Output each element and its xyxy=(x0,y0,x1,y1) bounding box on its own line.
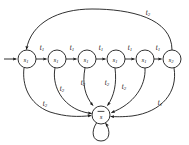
edge-sink-n1 xyxy=(24,68,92,116)
state-node-n4[interactable]: s1 xyxy=(107,50,125,68)
automaton-diagram: s1 s1 s1 s1 s1 s2 s t1 xyxy=(0,0,189,145)
state-node-sink[interactable]: s xyxy=(92,106,110,124)
edge-label-sink-6: t1 xyxy=(158,99,162,107)
edge-label-sink-1: t2 xyxy=(43,100,48,108)
svg-text:t2: t2 xyxy=(60,85,65,93)
state-node-n6[interactable]: s2 xyxy=(163,50,181,68)
svg-text:t2: t2 xyxy=(81,79,86,87)
edge-label-chain-5: t1 xyxy=(156,44,160,52)
state-node-n5[interactable]: s1 xyxy=(136,50,154,68)
svg-text:t1: t1 xyxy=(99,44,103,52)
svg-text:t2: t2 xyxy=(122,83,127,91)
edge-label-chain-1: t1 xyxy=(40,44,44,52)
edge-label-sink-2: t2 xyxy=(60,85,65,93)
edge-label-return: t2 xyxy=(146,9,151,17)
state-node-n1[interactable]: s1 xyxy=(18,50,36,68)
edge-sink-n6 xyxy=(111,68,175,117)
edge-label-sink-4: t2 xyxy=(105,79,110,87)
svg-text:t1: t1 xyxy=(156,44,160,52)
edge-sink-n5 xyxy=(111,68,145,113)
node-label-sink: s xyxy=(100,113,103,121)
svg-text:t1: t1 xyxy=(128,44,132,52)
edge-label-chain-4: t1 xyxy=(128,44,132,52)
svg-text:t2: t2 xyxy=(43,100,48,108)
state-node-n3[interactable]: s1 xyxy=(78,50,96,68)
edge-sink-n3 xyxy=(84,68,93,106)
svg-text:t1: t1 xyxy=(70,44,74,52)
svg-text:s: s xyxy=(100,113,103,121)
state-node-n2[interactable]: s1 xyxy=(48,50,66,68)
edge-label-chain-2: t1 xyxy=(70,44,74,52)
svg-text:t1: t1 xyxy=(158,99,162,107)
svg-text:t1: t1 xyxy=(40,44,44,52)
svg-text:t2: t2 xyxy=(146,9,151,17)
edge-label-chain-3: t1 xyxy=(99,44,103,52)
edge-label-sink-3: t2 xyxy=(81,79,86,87)
svg-text:t2: t2 xyxy=(105,79,110,87)
edge-label-sink-5: t2 xyxy=(122,83,127,91)
self-loop-sink xyxy=(93,123,109,141)
